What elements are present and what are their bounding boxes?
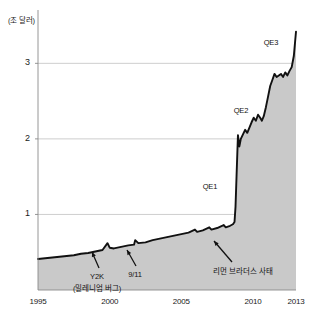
y-tick-label-3: 3 (16, 57, 30, 67)
annotation-label-qe2: QE2 (234, 106, 249, 115)
annotation-qe3: QE3 (264, 38, 279, 47)
annotation-y2k: Y2K(밀레니엄 버그) (73, 272, 121, 293)
y-tick-label-1: 1 (16, 208, 30, 218)
x-tick-label-1995: 1995 (21, 297, 55, 306)
x-tick-label-2010: 2010 (236, 297, 270, 306)
annotation-qe1: QE1 (203, 182, 218, 191)
area-fill-group (38, 32, 296, 290)
y-tick-label-2: 2 (16, 133, 30, 143)
annotation-label-sep11: 9/11 (128, 270, 142, 279)
annotation-label-y2k: Y2K (73, 272, 121, 281)
annotation-lehman: 리먼 브라더스 사태 (213, 265, 272, 276)
chart-figure: (조 달러) 123 19952000200520102013 QE1QE2QE… (0, 0, 318, 323)
annotation-label-lehman: 리먼 브라더스 사태 (213, 265, 272, 276)
annotation-sublabel-y2k: (밀레니엄 버그) (73, 282, 121, 293)
annotation-qe2: QE2 (234, 106, 249, 115)
series-area-fill (38, 32, 296, 290)
x-tick-label-2000: 2000 (93, 297, 127, 306)
x-tick-label-2013: 2013 (279, 297, 313, 306)
annotation-sep11: 9/11 (128, 270, 142, 279)
x-tick-label-2005: 2005 (164, 297, 198, 306)
annotation-label-qe3: QE3 (264, 38, 279, 47)
annotation-label-qe1: QE1 (203, 182, 218, 191)
